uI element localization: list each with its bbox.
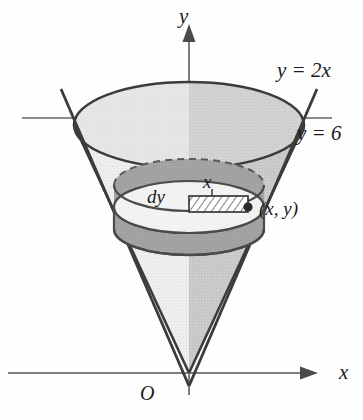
level-line-equation-label: y = 6 [297,123,342,144]
hatched-rectangle [189,196,248,212]
slant-line-equation-label: y = 2x [277,60,331,81]
x-axis-label: x [339,362,348,383]
cone-washer-diagram: y x O y = 2x y = 6 dy x (x, y) [0,0,363,420]
point-marker-xy [243,202,252,211]
thickness-label-dy: dy [147,187,165,206]
origin-label: O [140,383,154,403]
y-axis-label: y [179,6,188,27]
radius-label-x: x [203,172,211,191]
x-axis-arrowhead [300,367,318,380]
point-label-xy: (x, y) [259,199,298,218]
